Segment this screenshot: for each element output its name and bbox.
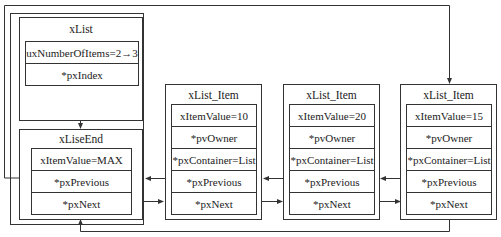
item-1-owner-field: *pvOwner <box>171 126 257 149</box>
item-3-previous-field: *pxPrevious <box>406 170 492 193</box>
end-px-next-field: *pxNext <box>31 192 132 215</box>
end-item-value-field: xItemValue=MAX <box>31 148 132 171</box>
item-3-next-field: *pxNext <box>406 192 492 215</box>
ux-number-of-items-field: uxNumberOfItems=2→3 <box>25 41 139 64</box>
item-2-owner-field: *pvOwner <box>289 126 375 149</box>
list-item-1: xList_Item xItemValue=10 *pvOwner *pxCon… <box>165 84 262 220</box>
last-next-arrow <box>81 220 450 232</box>
item-3-owner-field: *pvOwner <box>406 126 492 149</box>
list-item-2-title: xList_Item <box>284 88 379 102</box>
item-1-previous-field: *pxPrevious <box>171 170 257 193</box>
item-1-value-field: xItemValue=10 <box>171 104 257 127</box>
list-item-3-title: xList_Item <box>401 88 496 102</box>
item-3-container-field: *pxContainer=List <box>406 148 492 171</box>
item-2-container-field: *pxContainer=List <box>289 148 375 171</box>
item-2-value-field: xItemValue=20 <box>289 104 375 127</box>
list-item-1-title: xList_Item <box>166 88 261 102</box>
item-3-value-field: xItemValue=15 <box>406 104 492 127</box>
list-item-2: xList_Item xItemValue=20 *pvOwner *pxCon… <box>283 84 380 220</box>
end-px-previous-field: *pxPrevious <box>31 170 132 193</box>
item-1-next-field: *pxNext <box>171 192 257 215</box>
xlist-title: xList <box>20 22 142 36</box>
item-1-container-field: *pxContainer=List <box>171 148 257 171</box>
xlist-end-struct: xLiseEnd xItemValue=MAX *pxPrevious *pxN… <box>19 129 143 220</box>
px-index-field: *pxIndex <box>25 63 139 86</box>
item-2-next-field: *pxNext <box>289 192 375 215</box>
xlist-end-title: xLiseEnd <box>20 132 142 146</box>
xlist-struct: xList uxNumberOfItems=2→3 *pxIndex <box>19 17 143 121</box>
item-2-previous-field: *pxPrevious <box>289 170 375 193</box>
list-item-3: xList_Item xItemValue=15 *pvOwner *pxCon… <box>400 84 497 220</box>
